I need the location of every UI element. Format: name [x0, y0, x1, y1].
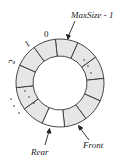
maxsize-arrow-icon: [67, 21, 76, 39]
rear-arrow-icon: [45, 129, 51, 146]
front-arrow-icon: [79, 126, 90, 141]
rear-label: Rear: [30, 147, 49, 157]
index-label-2: 2: [6, 58, 17, 65]
maxsize-label: MaxSize - 1: [70, 10, 114, 20]
circular-queue-diagram: 0 1 2 MaxSize - 1 Rear Front: [0, 0, 126, 161]
ellipsis-dots-left-outer: [10, 98, 20, 114]
index-label-1: 1: [23, 38, 32, 49]
front-label: Front: [82, 140, 104, 150]
queue-ring: [16, 39, 104, 127]
index-label-0: 0: [44, 29, 49, 39]
